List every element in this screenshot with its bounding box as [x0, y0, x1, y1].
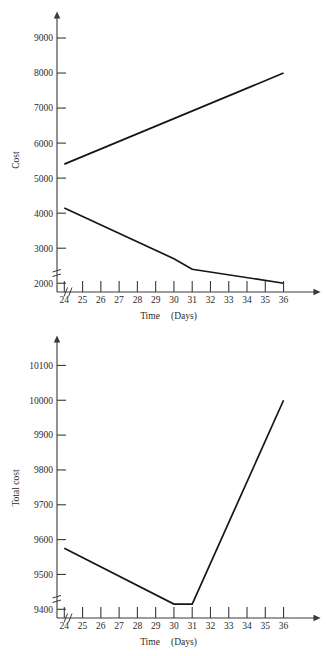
x-tick-label: 31	[187, 621, 197, 631]
y-tick-label: 9800	[34, 465, 53, 475]
y-axis-title-bottom: Total cost	[11, 469, 21, 506]
cost-vs-time-chart: 20003000400050006000700080009000 Cost 24…	[0, 0, 326, 330]
total-cost-vs-time-chart: 9400950096009700980099001000010100 Total…	[0, 330, 326, 656]
x-tick-label: 35	[261, 621, 271, 631]
y-tick-label: 6000	[34, 139, 53, 149]
x-tick-label: 33	[224, 295, 234, 305]
y-tick-label: 9400	[34, 605, 53, 615]
y-axis-top: 20003000400050006000700080009000 Cost	[11, 18, 66, 292]
x-tick-label: 26	[96, 295, 106, 305]
x-tick-label: 32	[206, 295, 216, 305]
series-group-bottom	[64, 400, 283, 604]
x-axis-unit-bottom: (Days)	[171, 637, 197, 648]
cost-chart-svg: 20003000400050006000700080009000 Cost 24…	[0, 0, 326, 330]
y-tick-label: 10000	[29, 396, 53, 406]
series-group-top	[64, 73, 283, 283]
y-tick-label: 9700	[34, 500, 53, 510]
x-tick-label: 28	[133, 621, 143, 631]
x-tick-label: 36	[279, 621, 289, 631]
x-axis-bottom: 24252627282930313233343536 Time (Days)	[57, 607, 314, 648]
x-axis-title-top: Time	[140, 311, 160, 321]
y-axis-title-top: Cost	[11, 151, 21, 169]
x-tick-label: 33	[224, 621, 234, 631]
x-tick-label: 34	[242, 621, 252, 631]
y-tick-label: 5000	[34, 174, 53, 184]
x-tick-label: 32	[206, 621, 216, 631]
x-tick-label: 29	[151, 621, 161, 631]
x-tick-label: 34	[242, 295, 252, 305]
x-tick-label: 35	[261, 295, 271, 305]
x-tick-label: 27	[114, 621, 124, 631]
x-tick-label: 27	[114, 295, 124, 305]
y-tick-label: 9500	[34, 570, 53, 580]
y-tick-label: 3000	[34, 244, 53, 254]
y-tick-label: 8000	[34, 68, 53, 78]
total-cost-chart-svg: 9400950096009700980099001000010100 Total…	[0, 330, 326, 656]
x-tick-label: 30	[169, 621, 179, 631]
y-tick-label: 9900	[34, 430, 53, 440]
y-tick-label: 2000	[34, 279, 53, 289]
y-tick-label: 9000	[34, 33, 53, 43]
x-axis-top: 24252627282930313233343536 Time (Days)	[57, 281, 314, 322]
x-axis-unit-top: (Days)	[171, 311, 197, 322]
x-tick-label: 31	[187, 295, 197, 305]
line-series-total-cost	[64, 400, 283, 604]
y-tick-label: 7000	[34, 103, 53, 113]
x-tick-label: 29	[151, 295, 161, 305]
x-tick-label: 25	[78, 295, 88, 305]
y-tick-label: 10100	[29, 361, 53, 371]
x-tick-label: 30	[169, 295, 179, 305]
line-series-direct-cost	[64, 73, 283, 164]
x-tick-label: 36	[279, 295, 289, 305]
y-tick-label: 4000	[34, 209, 53, 219]
x-tick-label: 28	[133, 295, 143, 305]
x-axis-title-bottom: Time	[140, 637, 160, 647]
y-tick-label: 9600	[34, 535, 53, 545]
y-axis-bottom: 9400950096009700980099001000010100 Total…	[11, 342, 66, 618]
x-tick-label: 26	[96, 621, 106, 631]
line-series-indirect-cost	[64, 208, 283, 283]
x-tick-label: 25	[78, 621, 88, 631]
